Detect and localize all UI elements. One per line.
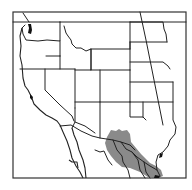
- state-borders: [13, 12, 186, 178]
- range-map: [0, 0, 192, 190]
